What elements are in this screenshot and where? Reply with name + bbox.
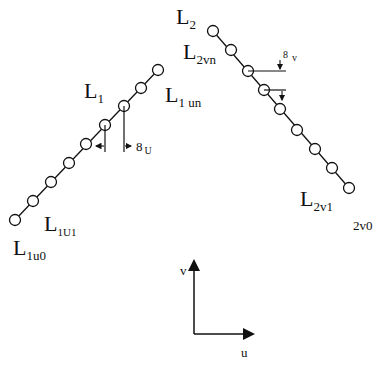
label-l1-u1: L1U1 bbox=[44, 213, 76, 235]
label-l2-v0: 2v0 bbox=[353, 219, 373, 232]
label-l1: L1 bbox=[84, 80, 104, 102]
label-l1-un: L1 un bbox=[165, 84, 201, 106]
sample-point bbox=[81, 139, 92, 150]
label-l2-v1: L2v1 bbox=[300, 188, 333, 210]
sample-point bbox=[327, 163, 338, 174]
sample-point bbox=[310, 144, 321, 155]
sample-point bbox=[136, 83, 147, 94]
label-delta-v: 8v bbox=[283, 50, 293, 60]
label-delta-u: 8U bbox=[136, 140, 150, 153]
sample-point bbox=[275, 104, 286, 115]
sample-point bbox=[292, 125, 303, 136]
sample-point bbox=[10, 215, 21, 226]
sample-point bbox=[344, 183, 355, 194]
sample-point bbox=[46, 177, 57, 188]
sample-point bbox=[28, 196, 39, 207]
sample-point bbox=[153, 65, 164, 76]
uv-axes bbox=[194, 262, 252, 334]
label-l2-vn: L2vn bbox=[183, 41, 216, 63]
axis-label-u: u bbox=[241, 346, 248, 359]
axis-label-v: v bbox=[180, 264, 187, 277]
label-l1-u0: L1u0 bbox=[13, 237, 46, 259]
sample-point bbox=[226, 45, 237, 56]
label-l2: L2 bbox=[176, 6, 196, 28]
line-l2 bbox=[208, 26, 355, 194]
sample-point bbox=[208, 26, 219, 37]
sample-point bbox=[64, 158, 75, 169]
